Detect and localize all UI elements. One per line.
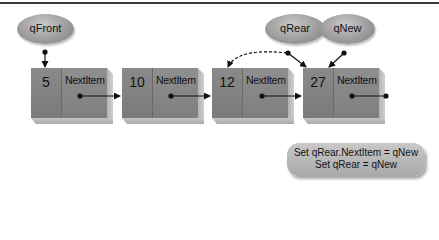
- qrear-previous-arrow-dashed: [228, 52, 287, 67]
- qnew-arrow: [329, 53, 344, 67]
- code-line-1: Set qRear.NextItem = qNew: [287, 147, 425, 159]
- code-line-2: Set qRear = qNew: [287, 159, 425, 171]
- qrear-arrow: [288, 53, 306, 67]
- null-terminator-icon: [383, 93, 388, 98]
- code-callout: Set qRear.NextItem = qNew Set qRear = qN…: [287, 143, 425, 176]
